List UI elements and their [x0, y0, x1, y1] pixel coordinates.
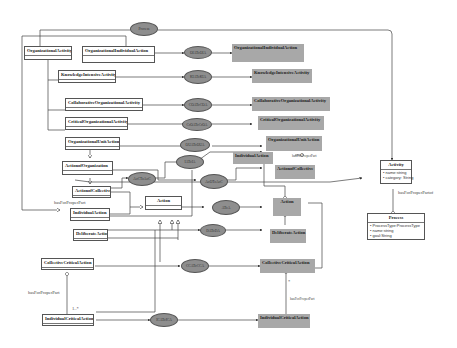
- ellipse-oia[interactable]: OIAToOIA: [184, 46, 212, 59]
- ellipse-kia[interactable]: KIAToKIA: [184, 70, 212, 84]
- gray-organizational-unit-action[interactable]: OrganizationalUnitAction: [266, 136, 322, 151]
- gray-action-of-collective[interactable]: ActionofCollective: [275, 165, 315, 179]
- gray-collaborative-organizational-activity[interactable]: CollaborativeOrganizationalActivity: [252, 97, 330, 111]
- multiplicity-star: *: [288, 279, 290, 284]
- class-critical-organizational-activity[interactable]: CriticalOrganizationalActivity: [65, 117, 128, 130]
- ellipse-coa[interactable]: COAToCOA: [184, 98, 212, 112]
- class-organizational-activity[interactable]: OrganizationalActivity: [24, 46, 72, 60]
- ellipse-aoc[interactable]: AoCToAoC: [128, 172, 156, 186]
- class-individual-action[interactable]: IndividualAction: [70, 208, 110, 221]
- edge-label-hasforproperpart-ind: hasForProperPart: [292, 154, 317, 158]
- gray-individual-critical-action[interactable]: IndividualCriticalAction: [258, 314, 310, 328]
- gray-organizational-individual-action[interactable]: OrganizationalIndividualAction: [232, 44, 304, 62]
- class-action-of-collective[interactable]: ActionofCollective: [72, 186, 111, 198]
- class-process[interactable]: Process • ProcessType:ProcessType • name…: [367, 213, 425, 240]
- ellipse-a[interactable]: AToA: [212, 200, 240, 215]
- ellipse-process[interactable]: Process: [130, 22, 158, 36]
- gray-action[interactable]: Action: [273, 198, 301, 216]
- class-action-of-organization[interactable]: ActionofOrganization: [62, 161, 113, 175]
- edge-label-hasforproperpart-activity: hasForProperPartof: [398, 190, 433, 195]
- gray-individual-action[interactable]: IndividualAction: [233, 152, 273, 164]
- ellipse-da[interactable]: DAToDA: [200, 224, 226, 237]
- class-individual-critical-action[interactable]: IndividualCriticalAction: [42, 314, 94, 326]
- ellipse-ica[interactable]: ICAToICA: [150, 313, 178, 327]
- gray-deliberate-action[interactable]: DeliberateAction: [270, 229, 306, 243]
- gray-knowledge-intensive-activity[interactable]: KnowledgeIntensiveActivity: [252, 69, 312, 83]
- ellipse-aoo[interactable]: AoOToAoC: [200, 174, 228, 189]
- gray-critical-organizational-activity[interactable]: CriticalOrganizationalActivity: [258, 116, 324, 130]
- class-knowledge-intensive-activity[interactable]: KnowledgeIntensiveActivity: [58, 70, 116, 83]
- edge-label-hasforproperpart-gcca: hasForProperPart: [290, 297, 315, 301]
- ellipse-oua[interactable]: OUAToOUA: [180, 138, 210, 152]
- class-organizational-individual-action[interactable]: OrganizationalIndividualAction: [82, 46, 155, 63]
- class-deliberate-action[interactable]: DeliberateAction: [73, 229, 108, 241]
- multiplicity-one-star: 1..*: [72, 306, 79, 311]
- class-collaborative-organizational-activity[interactable]: CollaborativeOrganizationalActivity: [65, 98, 143, 111]
- ellipse-cca[interactable]: CCAToCCA: [181, 259, 209, 273]
- ellipse-ia[interactable]: IAToIA: [176, 155, 204, 169]
- class-collective-critical-action[interactable]: CollectiveCriticalAction: [41, 258, 94, 270]
- class-organizational-unit-action[interactable]: OrganizationalUnitAction: [65, 137, 120, 150]
- class-activity[interactable]: Activity • name:string • category: Strin…: [380, 160, 412, 184]
- edge-label-hasforproperpart-left: hasForProperPart: [54, 200, 86, 205]
- ellipse-croa[interactable]: CrOAToCrOA: [182, 118, 212, 131]
- class-action[interactable]: Action: [145, 196, 182, 210]
- edge-label-hasforproperpart-cca: hasForProperPart: [28, 290, 60, 295]
- gray-collective-critical-action[interactable]: CollectiveCriticalAction: [260, 259, 315, 273]
